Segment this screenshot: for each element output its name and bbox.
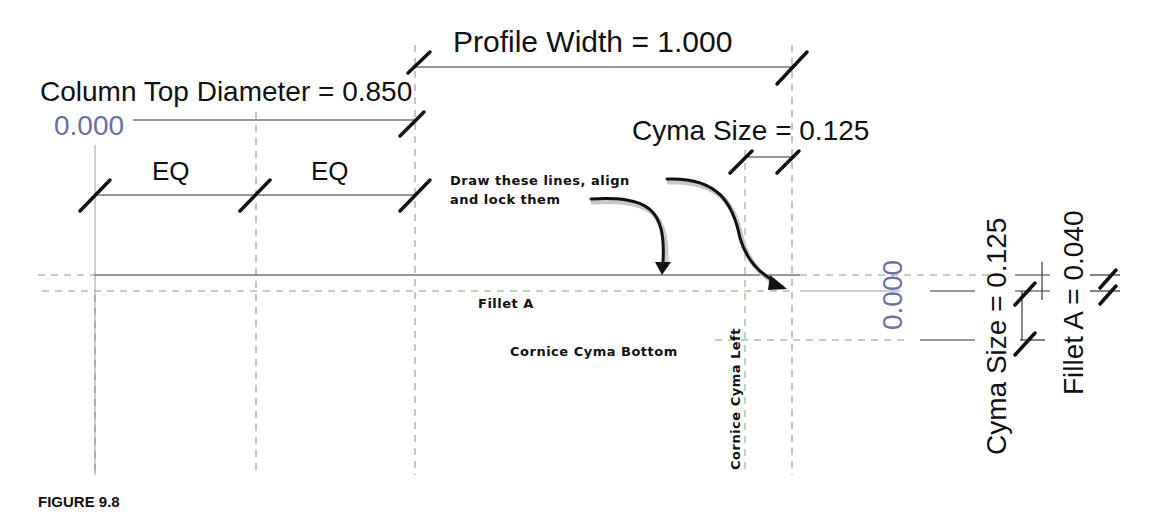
annotation-line-2: and lock them xyxy=(450,192,560,207)
vertical-reference-planes xyxy=(95,45,792,475)
ref-label-fillet-a: Fillet A xyxy=(478,296,534,311)
eq-left-label: EQ xyxy=(152,156,190,186)
arrowhead-top-line xyxy=(655,262,671,275)
arrowhead-corner xyxy=(768,275,787,290)
arrow-to-corner xyxy=(667,179,776,282)
annotation-callout: Draw these lines, align and lock them xyxy=(450,173,787,290)
column-top-diameter-dimension: Column Top Diameter = 0.850 0.000 xyxy=(40,76,424,141)
cyma-size-vertical-label: Cyma Size = 0.125 xyxy=(981,218,1012,455)
profile-width-label: Profile Width = 1.000 xyxy=(453,25,732,58)
ref-label-cornice-cyma-bottom: Cornice Cyma Bottom xyxy=(510,344,678,359)
figure-canvas: Profile Width = 1.000 Column Top Diamete… xyxy=(0,0,1156,517)
eq-dimension: EQ EQ xyxy=(80,156,430,211)
vertical-dimensions: Cyma Size = 0.125 Fillet A = 0.040 xyxy=(920,211,1120,455)
profile-width-dimension: Profile Width = 1.000 xyxy=(408,25,807,84)
arrow-to-top-line xyxy=(591,199,663,262)
annotation-line-1: Draw these lines, align xyxy=(450,173,630,188)
cyma-size-horizontal-label: Cyma Size = 0.125 xyxy=(632,115,869,146)
origin-x-temp-dimension: 0.000 xyxy=(54,110,124,141)
figure-caption: FIGURE 9.8 xyxy=(38,493,120,510)
fillet-a-label: Fillet A = 0.040 xyxy=(1058,211,1089,395)
cyma-size-horizontal-dimension: Cyma Size = 0.125 xyxy=(632,115,869,173)
origin-y-temp-dimension: 0.000 xyxy=(877,260,908,330)
column-top-diameter-label: Column Top Diameter = 0.850 xyxy=(40,76,412,107)
ref-label-cornice-cyma-left: Cornice Cyma Left xyxy=(728,328,743,470)
eq-right-label: EQ xyxy=(311,156,349,186)
